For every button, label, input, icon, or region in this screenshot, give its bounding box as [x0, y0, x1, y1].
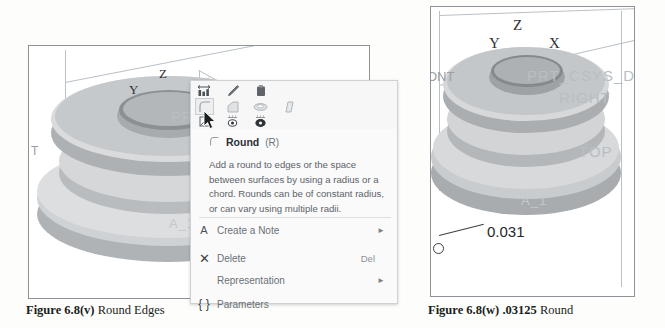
dimension-icon[interactable] [196, 83, 213, 98]
close-icon: ✕ [191, 251, 217, 266]
axis-label-x: X [549, 35, 560, 52]
round-tooltip-icon [209, 133, 220, 151]
tooltip-description: Add a round to edges or the space betwee… [191, 153, 397, 216]
datum-plane-label: T [31, 144, 38, 158]
caption-text: Round [540, 303, 573, 317]
axis-label-y: Y [129, 82, 138, 98]
shell-icon[interactable] [252, 99, 269, 114]
menu-item-create-a-note[interactable]: A Create a Note ► [191, 219, 397, 241]
datum-plane-front: ONT [431, 69, 454, 84]
figure-caption-right: Figure 6.8(w) .03125 Round [428, 303, 573, 318]
dimension-leader [439, 224, 484, 236]
axis-label-a1: A_1 [521, 193, 547, 208]
datum-plane-top: TOP [579, 143, 613, 160]
menu-item-shortcut: Del [361, 253, 397, 264]
menu-item-delete[interactable]: ✕ Delete Del [191, 247, 397, 269]
axis-label-y: Y [489, 35, 500, 52]
context-menu[interactable]: Round (R) Add a round to edges or the sp… [190, 80, 398, 304]
document-page: Z Y X PRT_ A_1 T [0, 0, 665, 328]
caption-label: Figure 6.8(v) [26, 303, 95, 317]
draft-icon[interactable] [280, 99, 297, 114]
menu-item-representation[interactable]: Representation ► [191, 269, 397, 291]
paste-icon[interactable] [252, 83, 269, 98]
figure-caption-left: Figure 6.8(v) Round Edges [26, 303, 165, 318]
round-tooltip: Round (R) Add a round to edges or the sp… [191, 131, 397, 216]
axis-label-z: Z [159, 66, 167, 82]
datum-line [621, 11, 622, 287]
menu-item-label: Representation [217, 275, 397, 286]
dimension-value: 0.031 [487, 223, 525, 240]
axis-label-z: Z [513, 17, 522, 34]
menu-divider [199, 217, 391, 218]
caption-label: Figure 6.8(w) .03125 [428, 303, 537, 317]
menu-item-label: Delete [217, 253, 361, 264]
csys-label: PRT_CSYS_DE [527, 67, 634, 84]
menu-item-label: Parameters [217, 299, 397, 310]
tooltip-title: Round [226, 136, 259, 148]
chamfer-icon[interactable] [224, 99, 241, 114]
caption-text: Round Edges [98, 303, 165, 317]
menu-item-parameters[interactable]: { } Parameters [191, 293, 397, 315]
chevron-right-icon: ► [377, 276, 385, 285]
datum-line [439, 8, 634, 16]
figure-panel-right: Z Y X PRT_CSYS_DE RIGHT TOP A_1 ONT 0.03… [430, 6, 635, 297]
datum-plane-right: RIGHT [559, 89, 611, 106]
tooltip-shortcut: (R) [265, 137, 279, 148]
dimension-anchor [433, 243, 444, 254]
hide-icon[interactable] [224, 114, 241, 129]
parameters-icon: { } [191, 297, 217, 311]
chevron-right-icon: ► [377, 226, 385, 235]
mini-toolbar[interactable] [191, 81, 397, 129]
cad-viewport-right[interactable]: Z Y X PRT_CSYS_DE RIGHT TOP A_1 ONT 0.03… [431, 7, 634, 296]
menu-item-label: Create a Note [217, 225, 397, 236]
show-icon[interactable] [252, 114, 269, 129]
mouse-cursor [203, 110, 217, 130]
annotation-icon: A [191, 224, 217, 236]
edit-pencil-icon[interactable] [224, 83, 241, 98]
